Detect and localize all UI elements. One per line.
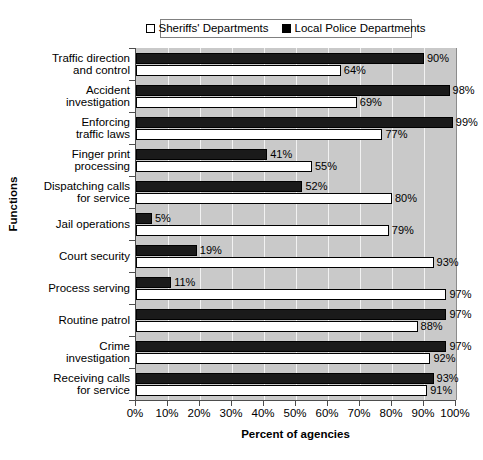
- bar-local-police: [136, 245, 197, 256]
- bar-local-police: [136, 85, 450, 96]
- bar-row-local-police: 97%: [136, 309, 456, 320]
- bar-row-local-police: 52%: [136, 181, 456, 192]
- legend-entry-sheriffs: Sheriffs' Departments: [146, 23, 268, 35]
- bar-sheriffs: [136, 257, 434, 268]
- bar-value-label: 80%: [392, 193, 417, 204]
- bar-row-local-police: 90%: [136, 53, 456, 64]
- x-axis-tick: [231, 401, 232, 406]
- y-axis-label: Routine patrol: [12, 314, 130, 327]
- y-axis-label: Finger printprocessing: [12, 148, 130, 173]
- y-axis-label: Dispatching callsfor service: [12, 180, 130, 205]
- y-axis-label: Receiving callsfor service: [12, 372, 130, 397]
- bar-row-local-police: 5%: [136, 213, 456, 224]
- y-axis-label-line: Crime: [12, 340, 130, 353]
- x-axis-tick: [263, 401, 264, 406]
- x-axis-tick: [295, 401, 296, 406]
- x-axis-tick-label: 100%: [435, 407, 475, 420]
- y-axis-label-line: Receiving calls: [12, 372, 130, 385]
- bar-row-sheriffs: 97%: [136, 289, 456, 300]
- bar-row-sheriffs: 69%: [136, 97, 456, 108]
- bar-row-local-police: 11%: [136, 277, 456, 288]
- bar-value-label: 11%: [171, 277, 195, 288]
- y-axis-label: Jail operations: [12, 218, 130, 231]
- x-axis-tick: [327, 401, 328, 406]
- bar-value-label: 90%: [424, 53, 449, 64]
- y-axis-label-line: processing: [12, 160, 130, 173]
- bar-group: 98%69%: [136, 80, 456, 112]
- bar-local-police: [136, 149, 267, 160]
- bar-value-label: 88%: [418, 321, 443, 332]
- y-axis-label-line: for service: [12, 192, 130, 205]
- bar-sheriffs: [136, 129, 382, 140]
- bar-group: 90%64%: [136, 48, 456, 80]
- bar-value-label: 97%: [446, 289, 471, 300]
- bar-row-sheriffs: 64%: [136, 65, 456, 76]
- bar-local-police: [136, 341, 446, 352]
- y-axis-label-line: for service: [12, 384, 130, 397]
- bar-row-sheriffs: 80%: [136, 193, 456, 204]
- bar-sheriffs: [136, 289, 446, 300]
- bar-value-label: 69%: [357, 97, 382, 108]
- x-axis-tick: [135, 401, 136, 406]
- bar-chart: Sheriffs' Departments Local Police Depar…: [0, 0, 483, 460]
- bar-sheriffs: [136, 385, 427, 396]
- x-axis-tick: [359, 401, 360, 406]
- bar-value-label: 41%: [267, 149, 292, 160]
- y-axis-label-line: Court security: [12, 250, 130, 263]
- bar-row-local-police: 93%: [136, 373, 456, 384]
- legend-swatch-local-police-icon: [282, 24, 291, 33]
- y-axis-label-line: and control: [12, 64, 130, 77]
- bar-value-label: 79%: [389, 225, 414, 236]
- bar-value-label: 91%: [427, 385, 452, 396]
- bar-sheriffs: [136, 225, 389, 236]
- y-axis-label-line: Jail operations: [12, 218, 130, 231]
- bar-value-label: 93%: [434, 373, 459, 384]
- bar-group: 41%55%: [136, 144, 456, 176]
- bar-row-sheriffs: 93%: [136, 257, 456, 268]
- bar-row-local-police: 41%: [136, 149, 456, 160]
- bar-local-police: [136, 373, 434, 384]
- bar-value-label: 5%: [152, 213, 171, 224]
- legend-label-local-police: Local Police Departments: [294, 23, 425, 35]
- bar-value-label: 98%: [450, 85, 475, 96]
- y-axis-label: Accidentinvestigation: [12, 84, 130, 109]
- legend-swatch-sheriffs-icon: [146, 24, 155, 33]
- bar-value-label: 19%: [197, 245, 222, 256]
- bar-group: 5%79%: [136, 208, 456, 240]
- bar-row-sheriffs: 92%: [136, 353, 456, 364]
- bar-value-label: 55%: [312, 161, 337, 172]
- y-axis-label-line: Dispatching calls: [12, 180, 130, 193]
- bar-sheriffs: [136, 97, 357, 108]
- bar-group: 52%80%: [136, 176, 456, 208]
- bar-sheriffs: [136, 193, 392, 204]
- y-axis-label-line: Enforcing: [12, 116, 130, 129]
- bar-value-label: 97%: [446, 309, 471, 320]
- bar-value-label: 52%: [302, 181, 327, 192]
- bar-local-police: [136, 277, 171, 288]
- x-axis-tick: [455, 401, 456, 406]
- bar-group: 99%77%: [136, 112, 456, 144]
- bar-value-label: 92%: [430, 353, 455, 364]
- y-axis-label: Traffic directionand control: [12, 52, 130, 77]
- bar-local-police: [136, 181, 302, 192]
- legend-label-sheriffs: Sheriffs' Departments: [158, 23, 268, 35]
- bar-value-label: 64%: [341, 65, 366, 76]
- bar-row-local-police: 97%: [136, 341, 456, 352]
- bar-local-police: [136, 53, 424, 64]
- bar-row-local-police: 99%: [136, 117, 456, 128]
- y-axis-label-line: Traffic direction: [12, 52, 130, 65]
- y-axis-label-line: investigation: [12, 96, 130, 109]
- bar-row-sheriffs: 55%: [136, 161, 456, 172]
- bar-group: 11%97%: [136, 272, 456, 304]
- x-axis-title: Percent of agencies: [135, 428, 456, 440]
- bar-group: 97%92%: [136, 336, 456, 368]
- bar-group: 93%91%: [136, 368, 456, 400]
- bar-local-police: [136, 309, 446, 320]
- bar-row-sheriffs: 88%: [136, 321, 456, 332]
- x-axis-tick: [199, 401, 200, 406]
- bar-sheriffs: [136, 161, 312, 172]
- bar-local-police: [136, 117, 453, 128]
- x-axis-tick: [423, 401, 424, 406]
- y-axis-label-line: traffic laws: [12, 128, 130, 141]
- bar-local-police: [136, 213, 152, 224]
